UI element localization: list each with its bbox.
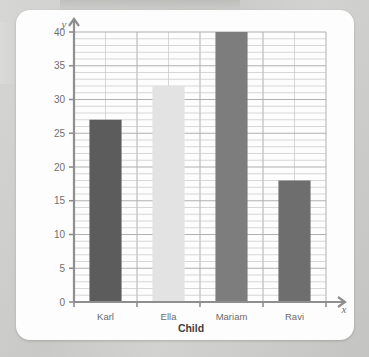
y-tick-label: 5	[59, 263, 65, 274]
bar	[215, 32, 247, 302]
x-axis-category-labels: KarlEllaMariamRavi	[97, 311, 304, 322]
x-category-label: Karl	[97, 311, 114, 322]
chart-card: 0510152025303540 KarlEllaMariamRavi Numb…	[16, 10, 354, 340]
x-axis-variable-label: x	[341, 303, 347, 315]
x-axis-title: Child	[178, 322, 204, 334]
y-tick-label: 20	[54, 162, 66, 173]
bar	[89, 120, 121, 302]
y-tick-label: 0	[59, 297, 65, 308]
bar	[278, 181, 310, 303]
y-tick-label: 15	[54, 195, 66, 206]
x-category-label: Ravi	[285, 311, 304, 322]
y-tick-label: 30	[54, 94, 66, 105]
y-axis-tick-labels: 0510152025303540	[54, 27, 66, 308]
y-tick-label: 35	[54, 60, 66, 71]
y-axis-variable-label: y	[61, 18, 67, 30]
x-category-label: Ella	[161, 311, 178, 322]
y-tick-label: 10	[54, 229, 66, 240]
bar	[152, 86, 184, 302]
bar-chart: 0510152025303540 KarlEllaMariamRavi Numb…	[16, 10, 354, 340]
x-category-label: Mariam	[216, 311, 248, 322]
chart-canvas: 0510152025303540 KarlEllaMariamRavi Numb…	[16, 10, 354, 340]
y-tick-label: 25	[54, 128, 66, 139]
